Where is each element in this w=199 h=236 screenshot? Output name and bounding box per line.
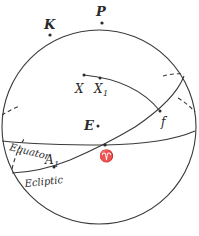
point-f: [159, 110, 162, 113]
point-aries: [103, 143, 106, 146]
label-f: f: [160, 115, 168, 129]
point-x1: [99, 77, 102, 80]
label-k: K: [43, 17, 56, 32]
point-p: [100, 21, 103, 24]
equator-circle: [2, 131, 195, 145]
label-aries: ♈: [99, 149, 114, 163]
point-k: [48, 33, 51, 36]
label-p: P: [95, 4, 107, 19]
point-x: [83, 74, 86, 77]
label-x1: X: [93, 82, 103, 96]
label-ecliptic: Ecliptic: [23, 174, 64, 189]
label-e: E: [83, 118, 95, 133]
dashed-equator-left: [2, 106, 20, 115]
point-e: [97, 125, 100, 128]
label-x: X: [74, 82, 84, 96]
label-x1-sub: 1: [103, 89, 108, 98]
label-a1-sub: 1: [54, 160, 59, 169]
celestial-sphere-diagram: P K X X 1 E ♈ f A 1 Equator Ecliptic: [0, 0, 199, 236]
